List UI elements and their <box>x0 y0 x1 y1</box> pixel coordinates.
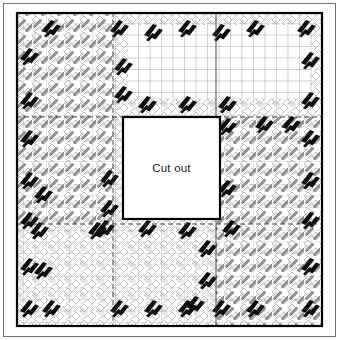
fabric-pattern-canvas <box>0 0 339 340</box>
cutout-square <box>123 117 220 219</box>
pattern-diagram: Cut out <box>0 0 339 340</box>
